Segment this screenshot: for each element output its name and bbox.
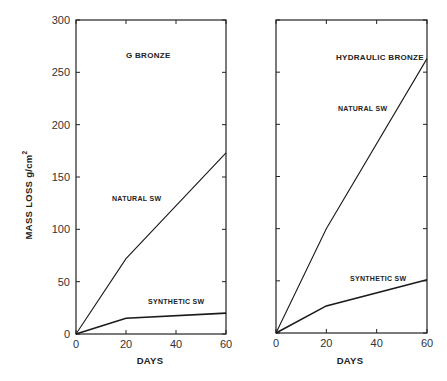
y-tick-label: 0	[64, 328, 70, 340]
series-lines	[76, 153, 226, 334]
x-tick-label: 20	[120, 338, 132, 350]
x-tick-label: 40	[170, 338, 182, 350]
x-axis-label: DAYS	[137, 355, 164, 366]
y-tick-label: 150	[52, 171, 70, 183]
plot-title: G BRONZE	[126, 51, 171, 60]
x-tick-label: 60	[220, 338, 232, 350]
svg-text:MASS LOSS g/cm2: MASS LOSS g/cm2	[21, 150, 34, 239]
y-tick-label: 250	[52, 66, 70, 78]
plot-title: HYDRAULIC BRONZE	[336, 53, 424, 62]
x-axis-label: DAYS	[337, 355, 364, 366]
y-tick-label: 200	[52, 119, 70, 131]
y-tick-label: 50	[58, 276, 70, 288]
series-line-synthetic-sw	[76, 313, 226, 334]
chart-figure: MASS LOSS g/cm2 050100150200250300 02040…	[0, 0, 447, 381]
series-label-natural: NATURAL SW	[112, 195, 161, 202]
x-tick-label: 20	[320, 337, 332, 349]
series-line-natural-sw	[76, 153, 226, 334]
plot-hydraulic-bronze: 0204060 HYDRAULIC BRONZE NATURAL SW SYNT…	[273, 20, 433, 366]
x-tick-label: 0	[73, 338, 79, 350]
y-ticks: 050100150200250300	[52, 14, 226, 340]
y-axis-label: MASS LOSS g/cm2	[21, 150, 34, 239]
series-label-synthetic: SYNTHETIC SW	[148, 298, 205, 305]
x-tick-label: 40	[371, 337, 383, 349]
x-tick-label: 0	[273, 337, 279, 349]
x-tick-label: 60	[421, 337, 433, 349]
series-label-synthetic: SYNTHETIC SW	[350, 275, 407, 282]
series-line-synthetic-sw	[276, 280, 427, 333]
series-label-natural: NATURAL SW	[338, 105, 387, 112]
series-lines	[276, 59, 427, 333]
plot-g-bronze: 050100150200250300 0204060 G BRONZE NATU…	[52, 14, 232, 366]
y-tick-label: 300	[52, 14, 70, 26]
y-tick-label: 100	[52, 223, 70, 235]
series-line-natural-sw	[276, 59, 427, 333]
